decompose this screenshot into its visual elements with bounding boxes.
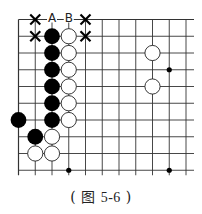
star-point (167, 168, 172, 173)
black-stone (11, 112, 27, 128)
white-stone (61, 112, 76, 127)
black-stone (44, 62, 60, 78)
white-stone (61, 62, 76, 77)
figure-caption: ( 图 5-6 ) (0, 186, 202, 206)
point-label-b: B (65, 11, 73, 25)
white-stone (61, 79, 76, 94)
white-stone (145, 79, 160, 94)
white-stone (44, 146, 59, 161)
white-stone (61, 29, 76, 44)
black-stone (44, 45, 60, 61)
point-label-a: A (48, 11, 57, 25)
star-point (66, 168, 71, 173)
black-stone (44, 95, 60, 111)
white-stone (61, 45, 76, 60)
white-stone (28, 146, 43, 161)
white-stone (44, 129, 59, 144)
black-stone (44, 112, 60, 128)
star-point (167, 67, 172, 72)
go-board-diagram: AB (0, 0, 202, 185)
caption-open-paren: ( (70, 189, 76, 205)
black-stone (44, 79, 60, 95)
black-stone (44, 28, 60, 44)
white-stone (61, 96, 76, 111)
caption-number: 5-6 (101, 190, 121, 205)
black-stone (27, 129, 43, 145)
caption-close-paren: ) (126, 189, 132, 205)
white-stone (145, 45, 160, 60)
caption-label: 图 (81, 189, 96, 205)
